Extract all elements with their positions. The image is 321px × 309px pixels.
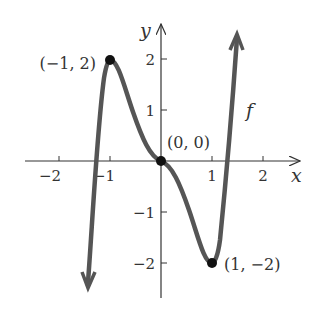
x-tick-label: −2 [39,167,61,185]
point-origin [156,156,166,166]
function-graph: −2 −1 1 2 2 1 −1 −2 x y f (−1, 2) (0, 0)… [0,0,321,309]
y-tick-label: 2 [145,51,155,69]
annotation-local-min: (1, −2) [224,255,280,274]
x-tick-label: 2 [258,167,268,185]
y-tick-label: 1 [145,102,155,120]
annotation-origin: (0, 0) [167,133,210,152]
x-tick-label: 1 [207,167,217,185]
function-label: f [244,99,256,121]
y-tick-label: −2 [133,255,155,273]
y-tick-label: −1 [133,204,155,222]
x-axis-label: x [291,164,302,186]
point-local-min [207,258,217,268]
y-axis-label: y [139,19,151,41]
point-local-max [105,55,115,65]
annotation-local-max: (−1, 2) [40,54,96,73]
